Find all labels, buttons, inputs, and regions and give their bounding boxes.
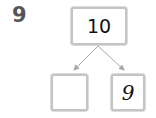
whole-box: 10 [71, 7, 127, 45]
whole-value: 10 [87, 15, 111, 37]
part-box-left-answer[interactable] [51, 74, 88, 111]
connector-left [74, 46, 98, 70]
connector-right [98, 46, 124, 70]
part-right-value: 9 [122, 81, 135, 105]
part-box-right: 9 [111, 74, 145, 111]
